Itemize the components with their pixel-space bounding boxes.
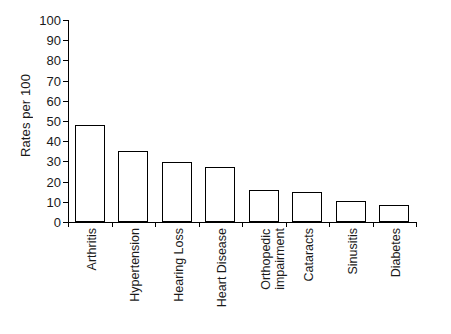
y-axis-tick-mark: [63, 60, 68, 61]
x-axis-category-label-line: impairment: [273, 228, 287, 290]
x-axis-category-label: Hypertension: [129, 228, 143, 302]
y-axis-tick-mark: [63, 81, 68, 82]
y-axis-tick-label: 20: [47, 175, 61, 188]
bar: [162, 162, 192, 222]
plot-area: 0102030405060708090100: [68, 20, 416, 222]
x-axis-tick-mark: [155, 222, 156, 227]
x-axis-category-label: Orthopedicimpairment: [260, 228, 287, 290]
y-axis-tick-mark: [63, 121, 68, 122]
x-axis-category-label-line: Hearing Loss: [172, 228, 186, 302]
x-axis-category-label-line: Sinusitis: [346, 228, 360, 275]
y-axis-tick-mark: [63, 40, 68, 41]
x-axis-tick-mark: [416, 222, 417, 227]
bar: [75, 125, 105, 222]
y-axis-tick-mark: [63, 161, 68, 162]
bar: [205, 167, 235, 222]
x-axis-tick-mark: [199, 222, 200, 227]
x-axis-category-label-line: Diabetes: [389, 228, 403, 277]
bar-chart-figure: Rates per 100 0102030405060708090100 Art…: [0, 0, 451, 334]
y-axis-tick-mark: [63, 101, 68, 102]
x-axis-category-label: Cataracts: [303, 228, 317, 282]
x-axis-category-label-line: Hypertension: [128, 228, 142, 302]
y-axis-tick-label: 30: [47, 155, 61, 168]
bar: [379, 205, 409, 222]
x-axis-category-label-line: Orthopedic: [259, 229, 273, 290]
x-axis-category-label-line: Cataracts: [302, 228, 316, 282]
y-axis-tick-label: 10: [47, 195, 61, 208]
x-axis-tick-mark: [68, 222, 69, 227]
bar: [118, 151, 148, 222]
x-axis-category-label-line: Heart Disease: [215, 228, 229, 307]
y-axis-tick-label: 60: [47, 94, 61, 107]
x-axis-category-labels: ArthritisHypertensionHearing LossHeart D…: [68, 228, 416, 334]
y-axis-tick-label: 80: [47, 54, 61, 67]
bar: [292, 192, 322, 222]
y-axis-tick-label: 100: [39, 14, 61, 27]
y-axis-tick-label: 0: [54, 216, 61, 229]
x-axis-tick-mark: [112, 222, 113, 227]
bar: [249, 190, 279, 222]
y-axis-title: Rates per 100: [14, 0, 36, 230]
x-axis-tick-mark: [373, 222, 374, 227]
x-axis-tick-mark: [286, 222, 287, 227]
y-axis-tick-label: 90: [47, 34, 61, 47]
x-axis-category-label-line: Arthritis: [85, 228, 99, 270]
x-axis-category-label: Sinusitis: [347, 228, 361, 275]
x-axis-category-label: Heart Disease: [216, 228, 230, 307]
x-axis-category-label: Diabetes: [390, 228, 404, 277]
bar: [336, 201, 366, 222]
y-axis-tick-label: 70: [47, 74, 61, 87]
y-axis-tick-mark: [63, 202, 68, 203]
y-axis-tick-label: 50: [47, 115, 61, 128]
y-axis-tick-mark: [63, 20, 68, 21]
x-axis-category-label: Arthritis: [86, 228, 100, 270]
y-axis-tick-mark: [63, 182, 68, 183]
y-axis-tick-mark: [63, 141, 68, 142]
y-axis-title-text: Rates per 100: [18, 74, 33, 157]
x-axis-tick-mark: [242, 222, 243, 227]
x-axis-tick-mark: [329, 222, 330, 227]
y-axis-tick-label: 40: [47, 135, 61, 148]
x-axis-category-label: Hearing Loss: [173, 228, 187, 302]
